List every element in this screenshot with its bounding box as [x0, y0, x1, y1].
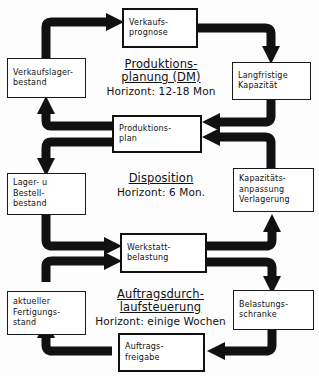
phase-horizon: Horizont: 12-18 Mon [86, 85, 236, 98]
phase-title-line2: laufsteuerung [83, 301, 238, 314]
diagram-canvas: .ar{ fill:none; stroke:#111111; stroke-w… [0, 0, 319, 376]
node-line: Fertigungs- [13, 308, 60, 319]
arrow-produktionsplan-to-verkaufslagerbestand [37, 96, 112, 126]
phase-title-line2: planung (DM) [86, 71, 236, 84]
node-line: schranke [239, 310, 277, 321]
node-line: Belastungs- [239, 300, 288, 311]
node-line: Kapazitäts- [239, 174, 286, 185]
node-line: stand [13, 318, 36, 329]
node-line: Verkaufs- [129, 18, 168, 29]
phase-label-produktionsplanung: Produktions- planung (DM) Horizont: 12-1… [86, 58, 236, 98]
arrow-langfristige-kapazitaet-to-produktionsplan [202, 100, 271, 131]
node-line: Langfristige [238, 71, 288, 82]
node-aktueller-fertigungsstand[interactable]: aktueller Fertigungs- stand [7, 291, 86, 335]
node-line: bestand [13, 78, 47, 89]
node-verkaufslagerbestand[interactable]: Verkaufslager- bestand [7, 58, 86, 98]
arrow-lager-bestellbestand-to-werkstattbelastung [46, 215, 122, 255]
node-line: plan [119, 134, 137, 145]
node-line: Auftrags- [125, 342, 163, 353]
node-line: bestand [13, 199, 47, 210]
node-line: Bestell- [13, 189, 45, 200]
node-lager-bestellbestand[interactable]: Lager- u Bestell- bestand [7, 173, 86, 215]
node-line: Lager- u [13, 178, 47, 189]
node-belastungsschranke[interactable]: Belastungs- schranke [233, 290, 314, 330]
node-line: Verkaufslager- [13, 68, 73, 79]
phase-horizon: Horizont: 6 Mon. [88, 186, 234, 199]
phase-label-disposition: Disposition Horizont: 6 Mon. [88, 172, 234, 199]
node-line: aktueller [13, 297, 50, 308]
arrow-verkaufslagerbestand-to-verkaufsprognose [46, 13, 124, 58]
phase-title-line1: Disposition [88, 172, 234, 185]
node-verkaufsprognose[interactable]: Verkaufs- prognose [122, 8, 198, 48]
arrow-belastungsschranke-to-auftragsfreigabe [207, 330, 272, 360]
phase-horizon: Horizont: einige Wochen [83, 315, 238, 328]
node-line: Werkstatt- [127, 243, 171, 254]
node-line: freigabe [125, 353, 160, 364]
arrow-kapazitaetsanpassung-to-produktionsplan [202, 128, 271, 168]
node-kapazitaetsanpassung[interactable]: Kapazitäts- anpassung Verlagerung [233, 168, 314, 212]
node-werkstattbelastung[interactable]: Werkstatt- belastung [120, 233, 207, 273]
node-line: anpassung [239, 185, 284, 196]
node-line: Produktions- [119, 124, 171, 135]
arrow-aktueller-fertigungsstand-to-werkstattbelastung [46, 252, 122, 282]
node-produktionsplan[interactable]: Produktions- plan [112, 115, 202, 153]
node-line: Verlagerung [239, 195, 290, 206]
arrow-werkstattbelastung-to-kapazitaetsanpassung [207, 214, 281, 246]
phase-label-auftragsdurchlaufsteuerung: Auftragsdurch- laufsteuerung Horizont: e… [83, 288, 238, 328]
node-line: prognose [129, 28, 168, 39]
node-line: Kapazität [238, 81, 277, 92]
node-auftragsfreigabe[interactable]: Auftrags- freigabe [118, 333, 205, 372]
arrow-produktionsplan-to-lager-bestellbestand [37, 142, 112, 176]
node-langfristige-kapazitaet[interactable]: Langfristige Kapazität [232, 62, 311, 100]
node-line: belastung [127, 253, 168, 264]
